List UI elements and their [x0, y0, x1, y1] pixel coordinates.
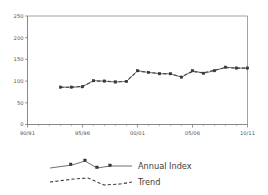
x-tick-label: 00/01 [130, 130, 145, 136]
data-point-marker [235, 67, 238, 70]
y-tick-label: 150 [14, 56, 24, 62]
x-tick-label: 10/11 [240, 130, 255, 136]
data-point-marker [125, 80, 128, 83]
y-tick-label: 200 [14, 35, 24, 41]
data-point-marker [213, 69, 216, 72]
data-point-marker [136, 69, 139, 72]
data-point-marker [92, 79, 95, 82]
data-point-marker [59, 86, 62, 89]
legend-marker-icon [84, 159, 87, 162]
y-tick-label: 100 [14, 78, 24, 84]
data-point-marker [103, 80, 106, 83]
data-point-marker [158, 72, 161, 75]
y-tick-label: 250 [14, 13, 24, 19]
legend-label-trend: Trend [137, 177, 160, 187]
data-point-marker [202, 72, 205, 75]
legend-marker-icon [109, 164, 112, 167]
x-tick-label: 90/91 [20, 130, 35, 136]
data-point-marker [246, 67, 249, 70]
x-tick-label: 95/96 [75, 130, 90, 136]
legend-label-annual-index: Annual Index [138, 161, 192, 171]
chart-background [0, 0, 268, 195]
legend-marker-icon [96, 166, 99, 169]
y-tick-label: 50 [17, 100, 24, 106]
data-point-marker [70, 86, 73, 89]
data-point-marker [180, 76, 183, 79]
data-point-marker [147, 71, 150, 74]
data-point-marker [169, 72, 172, 75]
legend-marker-icon [69, 163, 72, 166]
x-tick-label: 05/06 [185, 130, 200, 136]
index-trend-chart: 050100150200250 90/9195/9600/0105/0610/1… [0, 0, 268, 195]
data-point-marker [81, 85, 84, 88]
y-tick-label: 0 [20, 121, 23, 127]
data-point-marker [114, 81, 117, 84]
data-point-marker [191, 69, 194, 72]
data-point-marker [224, 66, 227, 69]
